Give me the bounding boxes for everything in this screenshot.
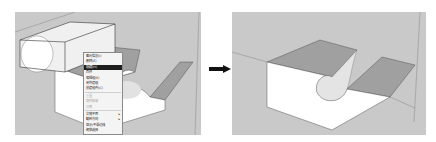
menu-item-detach: 分离: [84, 105, 122, 110]
sketchup-viewport-before[interactable]: 图元信息(I) 删除(E) 隐藏(H) 炸开 编辑组(E) 另外建组 创建组件(…: [15, 12, 201, 135]
model-after: [232, 12, 426, 135]
right-arrow-icon: [209, 65, 231, 73]
sketchup-viewport-after[interactable]: [232, 12, 426, 135]
menu-item-make-component[interactable]: 创建组件(C): [84, 86, 122, 91]
context-menu[interactable]: 图元信息(I) 删除(E) 隐藏(H) 炸开 编辑组(E) 另外建组 创建组件(…: [83, 52, 123, 135]
menu-item-zoom-selection[interactable]: 缩放选择: [84, 128, 122, 133]
